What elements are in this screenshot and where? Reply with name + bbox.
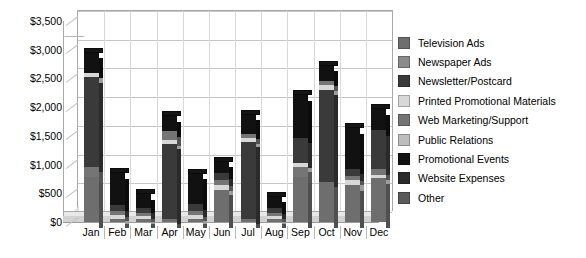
bar-segment[interactable] [371, 130, 386, 169]
bar-segment-side [256, 120, 260, 139]
bar-segment-side [386, 136, 390, 175]
x-tick-label: Jun [209, 226, 235, 238]
legend-item[interactable]: Newsletter/Postcard [398, 72, 584, 91]
bar-segment-side [256, 144, 260, 147]
legend-label: Television Ads [418, 37, 485, 49]
bar-segment-side [282, 219, 286, 222]
legend-item[interactable]: Television Ads [398, 33, 584, 52]
bar-segment[interactable] [214, 162, 229, 173]
bar-segment-side [360, 181, 364, 185]
bar-segment[interactable] [162, 131, 177, 140]
bar-segment[interactable] [293, 95, 308, 137]
bar-segment-side [386, 115, 390, 136]
bar-segment[interactable] [345, 185, 360, 222]
x-tick-label: Jul [235, 226, 261, 238]
legend-item[interactable]: Other [398, 188, 584, 207]
x-tick-label: Mar [130, 226, 156, 238]
bar-top-face [319, 61, 338, 66]
bar-segment[interactable] [214, 190, 229, 222]
bar-segment[interactable] [84, 53, 99, 73]
bar-segment[interactable] [84, 177, 99, 222]
bar-segment[interactable] [293, 167, 308, 177]
x-tick-separator [209, 226, 210, 239]
legend-item[interactable]: Newspaper Ads [398, 52, 584, 71]
bar-segment[interactable] [319, 66, 334, 81]
bar-segment-side [308, 143, 312, 168]
bar-top-face [241, 110, 260, 115]
bar-aug[interactable] [267, 197, 282, 222]
bar-segment[interactable] [241, 219, 256, 222]
bar-segment[interactable] [345, 169, 360, 176]
bar-segment[interactable] [188, 204, 203, 211]
legend-item[interactable]: Printed Promotional Materials [398, 91, 584, 110]
bar-top-face [110, 168, 129, 173]
legend-swatch-icon [398, 95, 410, 107]
bar-apr[interactable] [162, 116, 177, 222]
legend-item[interactable]: Public Relations [398, 130, 584, 149]
bar-segment[interactable] [319, 90, 334, 182]
bar-segment[interactable] [241, 115, 256, 134]
bar-segment-side [177, 146, 181, 149]
bar-sep[interactable] [293, 95, 308, 222]
x-tick-label: Oct [314, 226, 340, 238]
bar-segment-side [282, 202, 286, 213]
y-tick-label: $3,500 [0, 16, 62, 26]
bar-jan[interactable] [84, 53, 99, 222]
bar-segment[interactable] [162, 116, 177, 131]
bar-segment[interactable] [371, 109, 386, 130]
bar-segment[interactable] [136, 194, 151, 207]
legend-item[interactable]: Web Marketing/Support [398, 111, 584, 130]
legend-item[interactable]: Website Expenses [398, 169, 584, 188]
x-tick-separator [366, 226, 367, 239]
legend-label: Other [418, 192, 444, 204]
bar-segment-side [334, 71, 338, 86]
legend-swatch-icon [398, 37, 410, 49]
x-tick-label: May [183, 226, 209, 238]
bar-segment[interactable] [162, 219, 177, 222]
bar-segment[interactable] [110, 219, 125, 222]
bar-segment[interactable] [214, 173, 229, 180]
bar-segment[interactable] [293, 177, 308, 222]
legend-swatch-icon [398, 134, 410, 146]
bar-segment-side [334, 187, 338, 227]
bar-feb[interactable] [110, 173, 125, 222]
legend-label: Promotional Events [418, 153, 509, 165]
bar-jun[interactable] [214, 162, 229, 222]
bar-segment[interactable] [319, 182, 334, 222]
legend-swatch-icon [398, 192, 410, 204]
legend-swatch-icon [398, 56, 410, 68]
x-axis: JanFebMarAprMayJunJulAugSepOctNovDec [63, 226, 393, 244]
bar-nov[interactable] [345, 128, 360, 222]
bar-segment[interactable] [84, 77, 99, 167]
bar-jul[interactable] [241, 115, 256, 222]
bar-segment-side [334, 91, 338, 96]
bar-oct[interactable] [319, 66, 334, 222]
bar-mar[interactable] [136, 194, 151, 222]
bar-segment[interactable] [162, 144, 177, 219]
x-tick-label: Apr [157, 226, 183, 238]
bar-segment[interactable] [188, 219, 203, 222]
bar-segment[interactable] [84, 167, 99, 177]
bar-top-face [188, 169, 207, 174]
bar-segment-side [229, 191, 233, 196]
bar-segment[interactable] [188, 174, 203, 204]
bar-segment[interactable] [136, 219, 151, 222]
legend-label: Newspaper Ads [418, 56, 492, 68]
bar-segment[interactable] [267, 197, 282, 208]
legend-swatch-icon [398, 153, 410, 165]
bar-segment[interactable] [293, 138, 308, 163]
bar-segment[interactable] [345, 128, 360, 168]
bar-segment-side [177, 122, 181, 137]
bar-segment[interactable] [371, 178, 386, 222]
bar-may[interactable] [188, 174, 203, 222]
bar-segment-side [99, 172, 103, 182]
bar-segment[interactable] [267, 219, 282, 222]
bar-segment-side [125, 211, 129, 217]
bar-top-face [162, 111, 181, 116]
bar-segment-side [151, 200, 155, 213]
x-tick-separator [235, 226, 236, 239]
bar-segment[interactable] [110, 173, 125, 205]
bar-dec[interactable] [371, 109, 386, 222]
bar-segment[interactable] [241, 142, 256, 219]
legend-item[interactable]: Promotional Events [398, 149, 584, 168]
